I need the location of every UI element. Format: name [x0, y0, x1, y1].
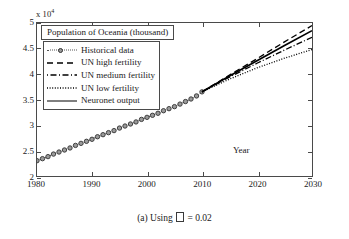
x-tick-label: 1980 [16, 179, 56, 189]
figure-panel: x 104 2 2.5 3 3.5 4 4.5 5 1980 1990 2000… [0, 0, 349, 239]
data-point-marker [95, 135, 99, 139]
legend-swatch-dotted [47, 83, 77, 94]
legend-label: UN high fertility [81, 58, 142, 67]
data-point-marker [167, 106, 171, 110]
x-tick-label: 1990 [71, 179, 111, 189]
y-axis-multiplier-base: x 10 [36, 9, 51, 19]
plot-area: Population of Oceania (thousand) Histori… [36, 22, 313, 177]
data-point-marker [51, 152, 55, 156]
missing-glyph-box-icon [176, 212, 184, 222]
data-point-marker [145, 115, 149, 119]
legend-swatch-solid [47, 95, 77, 106]
y-tick-label: 4 [4, 69, 34, 79]
chart-title-box: Population of Oceania (thousand) [41, 25, 174, 40]
data-point-marker [106, 130, 110, 134]
data-point-marker [90, 137, 94, 141]
y-tick-label: 3.5 [4, 95, 34, 105]
data-point-marker [183, 99, 187, 103]
y-tick-label: 5 [4, 17, 34, 27]
data-point-marker [62, 148, 66, 152]
data-point-marker [194, 94, 198, 98]
legend-label: UN low fertility [81, 84, 139, 93]
data-point-marker [172, 104, 176, 108]
data-point-marker [79, 141, 83, 145]
x-tick-label: 2020 [238, 179, 278, 189]
data-point-marker [123, 124, 127, 128]
series-line [202, 31, 312, 92]
data-point-marker [37, 159, 39, 163]
data-point-marker [178, 102, 182, 106]
data-point-marker [117, 126, 121, 130]
y-axis-multiplier: x 104 [36, 8, 54, 19]
legend-swatch-dotted-marker [47, 45, 77, 56]
data-point-marker [112, 128, 116, 132]
x-tick-label: 2010 [182, 179, 222, 189]
data-point-marker [101, 132, 105, 136]
circle-marker-icon [58, 48, 63, 53]
legend-item-historical-data: Historical data [47, 44, 155, 57]
y-tick-label: 3 [4, 120, 34, 130]
legend-item-un-low-fertility: UN low fertility [47, 82, 155, 95]
data-point-marker [134, 120, 138, 124]
legend-label: Historical data [81, 46, 134, 55]
chart-legend: Historical data UN high fertility UN med… [43, 41, 160, 110]
data-point-marker [57, 150, 61, 154]
legend-item-neuronet-output: Neuronet output [47, 94, 155, 107]
y-axis-multiplier-exponent: 4 [51, 8, 54, 14]
data-point-marker [150, 113, 154, 117]
data-point-marker [73, 143, 77, 147]
legend-item-un-high-fertility: UN high fertility [47, 57, 155, 70]
x-axis-label: Year [233, 145, 250, 155]
legend-item-un-medium-fertility: UN medium fertility [47, 69, 155, 82]
legend-swatch-dashed [47, 57, 77, 68]
data-point-marker [161, 109, 165, 113]
legend-swatch-dash-dot [47, 70, 77, 81]
y-tick-label: 4.5 [4, 43, 34, 53]
data-point-marker [68, 146, 72, 150]
x-tick-label: 2030 [293, 179, 333, 189]
legend-label: Neuronet output [81, 96, 140, 105]
data-point-marker [40, 156, 44, 160]
data-point-marker [128, 122, 132, 126]
data-point-marker [189, 97, 193, 101]
x-tick-label: 2000 [127, 179, 167, 189]
legend-label: UN medium fertility [81, 71, 155, 80]
caption-suffix: = 0.02 [188, 213, 212, 223]
chart-title: Population of Oceania (thousand) [47, 27, 168, 37]
y-tick-label: 2.5 [4, 146, 34, 156]
caption-prefix: (a) Using [137, 213, 173, 223]
data-point-marker [139, 117, 143, 121]
series-line [202, 50, 312, 92]
figure-caption: (a) Using = 0.02 [0, 212, 349, 223]
data-point-marker [84, 139, 88, 143]
data-point-marker [46, 154, 50, 158]
data-point-marker [156, 111, 160, 115]
